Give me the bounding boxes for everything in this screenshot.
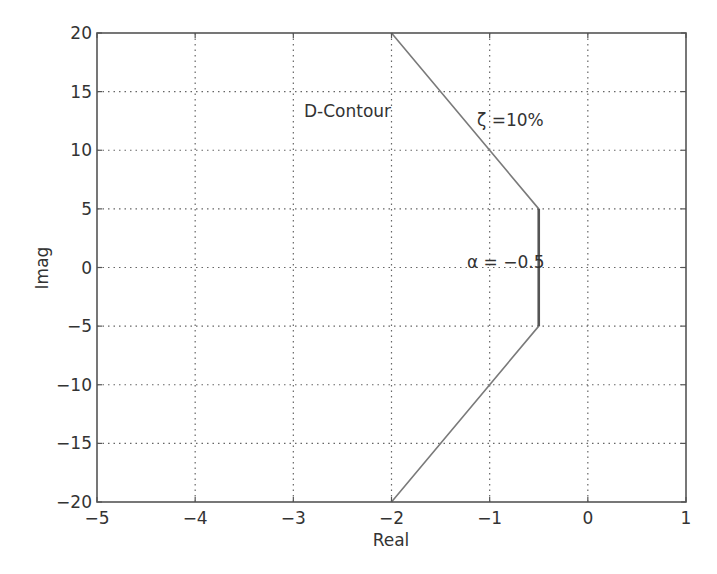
- y-tick-label: −10: [56, 375, 92, 395]
- grid-lines: [97, 33, 686, 502]
- annotation-d-contour: D-Contour: [304, 101, 391, 121]
- y-tick-label: 15: [70, 82, 92, 102]
- annotation-zeta: ζ =10%: [477, 110, 544, 130]
- y-axis-ticks: −20−15−10−505101520: [56, 23, 686, 512]
- x-tick-label: −3: [281, 508, 306, 528]
- annotation-alpha: α = −0.5: [467, 252, 545, 272]
- y-tick-label: −20: [56, 492, 92, 512]
- y-tick-label: 10: [70, 140, 92, 160]
- y-tick-label: −5: [67, 316, 92, 336]
- chart: −5−4−3−2−101 −20−15−10−505101520 Real Im…: [0, 0, 717, 574]
- y-tick-label: 0: [81, 258, 92, 278]
- y-axis-label: Imag: [32, 247, 52, 290]
- y-tick-label: −15: [56, 433, 92, 453]
- y-tick-label: 20: [70, 23, 92, 43]
- x-tick-label: 0: [582, 508, 593, 528]
- x-tick-label: 1: [681, 508, 692, 528]
- x-tick-label: −4: [183, 508, 208, 528]
- y-tick-label: 5: [81, 199, 92, 219]
- x-tick-label: −1: [477, 508, 502, 528]
- x-axis-label: Real: [373, 530, 410, 550]
- x-tick-label: −2: [379, 508, 404, 528]
